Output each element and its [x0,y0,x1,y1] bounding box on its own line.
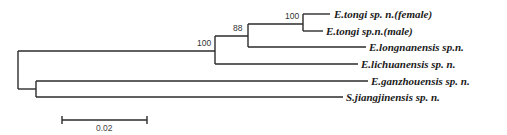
taxon-jiangjinensis: S.jiangjinensis sp. n. [346,91,440,103]
taxon-longnanensis: E.longnanensis sp.n. [368,41,464,53]
taxon-ganzhouensis: E.ganzhouensis sp. n. [370,75,470,87]
bootstrap-upper-clade: 100 [197,38,211,48]
bootstrap-tongi-clade: 100 [285,11,299,21]
taxon-tongi-male: E.tongi sp.n.(male) [325,25,413,38]
scale-bar: 0.02 [62,116,147,133]
bootstrap-longnanensis-clade: 88 [233,23,243,33]
scale-bar-label: 0.02 [96,123,113,133]
taxon-lichuanensis: E.lichuanensis sp. n. [360,58,455,70]
taxon-tongi-female: E.tongi sp. n.(female) [333,8,432,21]
phylogenetic-tree: 100 88 100 E.tongi sp. n.(female) E.tong… [0,0,507,135]
